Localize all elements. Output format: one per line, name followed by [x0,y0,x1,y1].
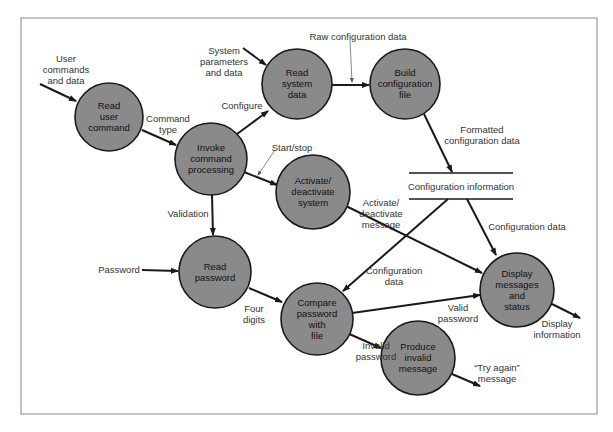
store-label: Configuration information [408,181,514,192]
flow-label-config-data-display: Configuration data [488,221,566,232]
data-flow-diagram: Configuration information Readusercomman… [0,0,613,432]
flow-label-raw-config: Raw configuration data [309,31,407,42]
process-read-system-data: Readsystemdata [262,49,332,119]
flow-label-activate-msg: Activate/deactivatemessage [359,197,402,230]
process-build-configuration-file: Buildconfigurationfile [370,49,440,119]
process-display-messages-and-status: Displaymessagesandstatus [480,253,554,327]
process-compare-password-with-file: Comparepasswordwithfile [281,283,353,355]
flow-label-four-digits: Fourdigits [243,303,265,325]
process-activate-deactivate-system: Activate/deactivatesystem [276,155,350,229]
flow-label-password: Password [98,264,140,275]
process-read-user-command: Readusercommand [75,83,143,151]
arrow-password [142,270,178,271]
arrow-validation [212,195,213,235]
process-invoke-command-processing: Invokecommandprocessing [175,123,247,195]
flow-label-validation: Validation [167,208,208,219]
flow-label-start-stop: Start/stop [272,142,313,153]
flow-label-configure: Configure [221,100,262,111]
flow-label-try-again: “Try again”message [474,362,520,384]
process-read-password: Readpassword [179,236,251,308]
